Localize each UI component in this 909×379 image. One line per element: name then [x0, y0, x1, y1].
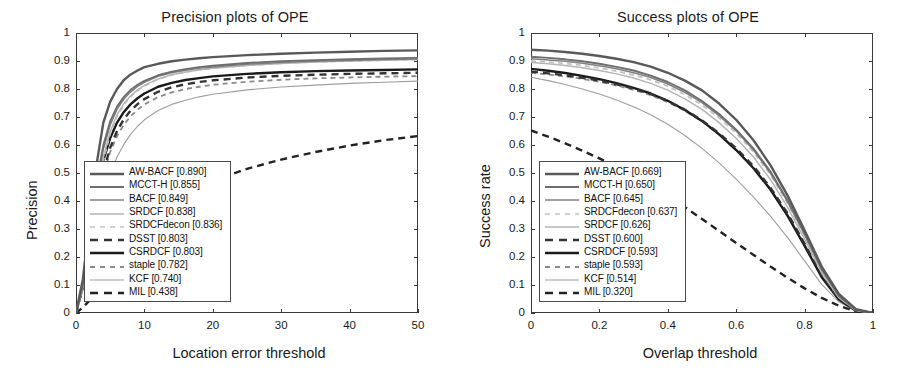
- legend-item: SRDCF [0.838]: [89, 205, 225, 218]
- legend-label: SRDCFdecon [0.836]: [129, 219, 222, 230]
- legend-label: MIL [0.320]: [584, 286, 633, 297]
- legend-line-swatch: [89, 179, 125, 191]
- legend-line-swatch: [544, 245, 580, 257]
- success-plot-panel: Success plots of OPE Success rate Overla…: [455, 0, 909, 379]
- legend-line-swatch: [544, 272, 580, 284]
- legend-line-swatch: [544, 192, 580, 204]
- legend-label: MCCT-H [0.650]: [584, 179, 655, 190]
- legend-label: staple [0.593]: [584, 259, 643, 270]
- legend-line-swatch: [89, 219, 125, 231]
- legend-label: SRDCFdecon [0.637]: [584, 206, 677, 217]
- legend-line-swatch: [544, 206, 580, 218]
- precision-plot-panel: Precision plots of OPE Precision Locatio…: [0, 0, 454, 379]
- legend-label: staple [0.782]: [129, 259, 188, 270]
- legend-line-swatch: [544, 232, 580, 244]
- legend-item: AW-BACF [0.890]: [89, 165, 225, 178]
- legend-item: staple [0.782]: [89, 258, 225, 271]
- legend-line-swatch: [89, 272, 125, 284]
- legend-label: KCF [0.740]: [129, 273, 181, 284]
- legend-line-swatch: [89, 259, 125, 271]
- legend-line-swatch: [89, 245, 125, 257]
- legend-item: DSST [0.803]: [89, 231, 225, 244]
- legend-line-swatch: [89, 166, 125, 178]
- legend-label: BACF [0.645]: [584, 193, 643, 204]
- legend-line-swatch: [89, 285, 125, 297]
- legend-item: CSRDCF [0.803]: [89, 245, 225, 258]
- legend-label: CSRDCF [0.593]: [584, 246, 658, 257]
- legend-label: MIL [0.438]: [129, 286, 178, 297]
- legend-item: AW-BACF [0.669]: [544, 165, 680, 178]
- legend-label: DSST [0.600]: [584, 233, 643, 244]
- legend-line-swatch: [544, 259, 580, 271]
- legend-item: MIL [0.438]: [89, 285, 225, 298]
- legend-item: KCF [0.514]: [544, 271, 680, 284]
- legend-item: MCCT-H [0.855]: [89, 178, 225, 191]
- legend-line-swatch: [544, 166, 580, 178]
- legend-item: BACF [0.849]: [89, 192, 225, 205]
- legend-label: AW-BACF [0.669]: [584, 166, 661, 177]
- legend-item: CSRDCF [0.593]: [544, 245, 680, 258]
- legend-item: KCF [0.740]: [89, 271, 225, 284]
- legend-item: SRDCF [0.626]: [544, 218, 680, 231]
- legend-line-swatch: [544, 285, 580, 297]
- legend-label: DSST [0.803]: [129, 233, 188, 244]
- legend-line-swatch: [89, 192, 125, 204]
- legend-item: DSST [0.600]: [544, 231, 680, 244]
- legend-line-swatch: [544, 179, 580, 191]
- legend-line-swatch: [89, 232, 125, 244]
- legend-label: KCF [0.514]: [584, 273, 636, 284]
- legend-label: SRDCF [0.838]: [129, 206, 196, 217]
- legend-line-swatch: [544, 219, 580, 231]
- legend-item: BACF [0.645]: [544, 192, 680, 205]
- success-legend: AW-BACF [0.669]MCCT-H [0.650]BACF [0.645…: [539, 161, 686, 302]
- legend-label: AW-BACF [0.890]: [129, 166, 206, 177]
- legend-item: staple [0.593]: [544, 258, 680, 271]
- legend-label: CSRDCF [0.803]: [129, 246, 203, 257]
- legend-item: SRDCFdecon [0.637]: [544, 205, 680, 218]
- legend-item: SRDCFdecon [0.836]: [89, 218, 225, 231]
- ope-plots-figure: Precision plots of OPE Precision Locatio…: [0, 0, 909, 379]
- legend-item: MIL [0.320]: [544, 285, 680, 298]
- legend-label: SRDCF [0.626]: [584, 219, 651, 230]
- legend-label: BACF [0.849]: [129, 193, 188, 204]
- legend-label: MCCT-H [0.855]: [129, 179, 200, 190]
- legend-item: MCCT-H [0.650]: [544, 178, 680, 191]
- precision-legend: AW-BACF [0.890]MCCT-H [0.855]BACF [0.849…: [84, 161, 231, 302]
- legend-line-swatch: [89, 206, 125, 218]
